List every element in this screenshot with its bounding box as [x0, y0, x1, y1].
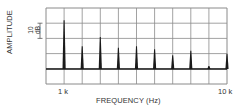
- chart-grid: [46, 8, 227, 84]
- spectrum-chart: [0, 0, 245, 108]
- harmonic-spike: [63, 20, 66, 69]
- harmonic-spike: [81, 46, 84, 69]
- y-axis-label: AMPLITUDE: [5, 2, 15, 62]
- scale-unit: dB: [35, 22, 42, 38]
- harmonic-spike: [171, 55, 174, 69]
- harmonic-spike: [135, 46, 138, 69]
- harmonic-spike: [153, 49, 156, 69]
- x-axis-label: FREQUENCY (Hz): [96, 96, 161, 105]
- harmonic-spike: [117, 48, 120, 69]
- harmonic-spikes: [63, 20, 229, 69]
- scale-annotation: 10 dB: [28, 22, 40, 38]
- harmonic-spike: [225, 54, 228, 69]
- x-tick-1k: 1 k: [58, 87, 68, 96]
- harmonic-spike: [99, 37, 102, 69]
- x-tick-10k: 10 k: [218, 87, 232, 96]
